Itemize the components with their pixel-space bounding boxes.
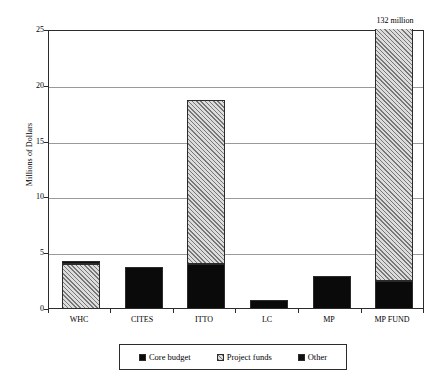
- bar-segment-mp-fund-project-funds[interactable]: [375, 29, 413, 281]
- x-tick-mark-1: [110, 309, 111, 313]
- legend-label-project-funds: Project funds: [227, 353, 272, 362]
- bar-segment-lc-core-budget[interactable]: [250, 300, 288, 309]
- y-tick-label-25: 25: [20, 26, 44, 34]
- bar-segment-whc-other[interactable]: [62, 261, 100, 264]
- legend-item-core-budget[interactable]: Core budget: [139, 353, 191, 362]
- bar-segment-cites-core-budget[interactable]: [125, 267, 163, 309]
- bar-segment-itto-project-funds[interactable]: [187, 100, 225, 264]
- bar-group-mp[interactable]: [313, 30, 351, 309]
- x-tick-mark-5: [361, 309, 362, 313]
- x-tick-mark-3: [235, 309, 236, 313]
- y-tick-label-5: 5: [20, 249, 44, 257]
- x-tick-mark-2: [173, 309, 174, 313]
- y-tick-label-0: 0: [20, 305, 44, 313]
- x-tick-mark-0: [48, 309, 49, 313]
- legend: Core budget Project funds Other: [119, 344, 347, 370]
- x-tick-mark-4: [298, 309, 299, 313]
- bar-chart: Millions of Dollars 0 5 10 15 20 25: [0, 0, 445, 387]
- bar-segment-mp-fund-core-budget[interactable]: [375, 281, 413, 309]
- bar-segment-whc-project-funds[interactable]: [62, 264, 100, 309]
- bar-group-mp-fund[interactable]: [375, 30, 413, 309]
- x-tick-label-mp-fund: MP FUND: [374, 315, 409, 324]
- legend-label-core-budget: Core budget: [149, 353, 191, 362]
- project-funds-swatch-icon: [217, 354, 224, 361]
- bar-segment-mp-core-budget[interactable]: [313, 276, 351, 310]
- bar-group-whc[interactable]: [62, 30, 100, 309]
- legend-item-project-funds[interactable]: Project funds: [217, 353, 272, 362]
- x-tick-label-mp: MP: [323, 315, 335, 324]
- x-tick-mark-6: [423, 309, 424, 313]
- bar-group-lc[interactable]: [250, 30, 288, 309]
- bar-group-itto[interactable]: [187, 30, 225, 309]
- bar-segment-itto-core-budget[interactable]: [187, 264, 225, 309]
- core-budget-swatch-icon: [139, 354, 146, 361]
- bar-annotation-mp-fund: 132 million: [376, 16, 413, 25]
- y-tick-label-15: 15: [20, 138, 44, 146]
- bars-layer: [48, 30, 424, 309]
- y-axis-title: Millions of Dollars: [25, 85, 34, 225]
- legend-label-other: Other: [308, 353, 327, 362]
- x-tick-label-cites: CITES: [131, 315, 153, 324]
- y-tick-label-10: 10: [20, 193, 44, 201]
- y-tick-label-20: 20: [20, 82, 44, 90]
- x-tick-label-itto: ITTO: [195, 315, 213, 324]
- other-swatch-icon: [298, 354, 305, 361]
- x-tick-label-whc: WHC: [70, 315, 89, 324]
- legend-item-other[interactable]: Other: [298, 353, 327, 362]
- x-tick-label-lc: LC: [262, 315, 272, 324]
- bar-group-cites[interactable]: [125, 30, 163, 309]
